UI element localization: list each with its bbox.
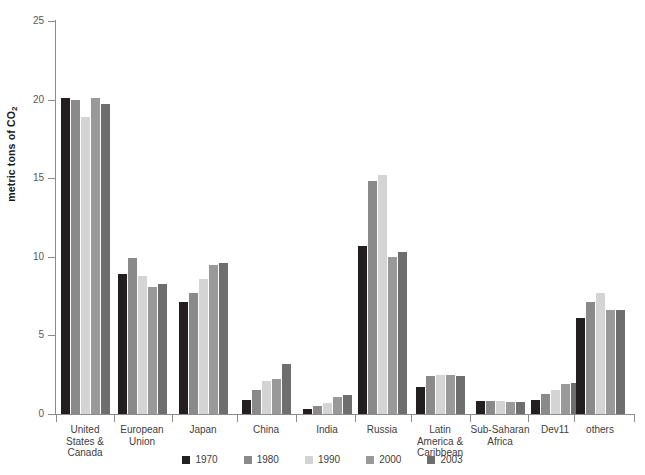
y-axis-tick: [48, 257, 55, 258]
bar[interactable]: [436, 375, 445, 414]
bar[interactable]: [118, 274, 127, 414]
x-axis-tick: [634, 415, 635, 422]
bar[interactable]: [81, 117, 90, 414]
legend-swatch-icon: [366, 456, 374, 464]
bar[interactable]: [426, 376, 435, 414]
legend-swatch-icon: [182, 456, 190, 464]
y-axis-tick: [48, 335, 55, 336]
bar[interactable]: [576, 318, 585, 414]
bar-group: [118, 21, 167, 414]
bar[interactable]: [541, 394, 550, 414]
bar[interactable]: [189, 293, 198, 414]
legend: 19701980199020002003: [0, 455, 645, 465]
y-axis-tick-label: 0: [10, 409, 44, 419]
legend-label: 2000: [379, 455, 401, 465]
bar[interactable]: [476, 401, 485, 414]
bar[interactable]: [506, 402, 515, 414]
bar[interactable]: [606, 310, 615, 414]
bar[interactable]: [91, 98, 100, 414]
bar[interactable]: [516, 402, 525, 414]
plot-area: [56, 21, 634, 414]
bar[interactable]: [219, 263, 228, 414]
x-axis-tick: [56, 415, 57, 422]
legend-item-1990[interactable]: 1990: [305, 455, 340, 465]
bar[interactable]: [209, 265, 218, 414]
bar[interactable]: [252, 390, 261, 414]
legend-item-1970[interactable]: 1970: [182, 455, 217, 465]
bar[interactable]: [446, 375, 455, 414]
bar[interactable]: [343, 395, 352, 414]
bar-group: [476, 21, 525, 414]
bar[interactable]: [272, 379, 281, 414]
bar[interactable]: [71, 100, 80, 414]
y-axis-title-text: metric tons of CO: [5, 111, 17, 202]
bar[interactable]: [101, 104, 110, 414]
bar[interactable]: [596, 293, 605, 414]
bar[interactable]: [398, 252, 407, 414]
legend-item-1980[interactable]: 1980: [244, 455, 279, 465]
y-axis-tick: [48, 100, 55, 101]
x-axis-line: [55, 414, 635, 415]
bar[interactable]: [128, 258, 137, 414]
bar-group: [303, 21, 352, 414]
bar-group: [242, 21, 291, 414]
bar[interactable]: [303, 409, 312, 415]
bar[interactable]: [242, 400, 251, 414]
bar[interactable]: [561, 384, 570, 414]
y-axis-tick: [48, 21, 55, 22]
bar[interactable]: [323, 403, 332, 414]
bar[interactable]: [138, 276, 147, 414]
legend-item-2003[interactable]: 2003: [427, 455, 462, 465]
legend-swatch-icon: [427, 456, 435, 464]
y-axis-title: metric tons of CO2: [2, 89, 20, 219]
bar[interactable]: [199, 279, 208, 414]
legend-item-2000[interactable]: 2000: [366, 455, 401, 465]
bar[interactable]: [388, 257, 397, 414]
legend-label: 1970: [195, 455, 217, 465]
x-axis-tick: [237, 415, 238, 422]
category-label-line: Africa: [462, 436, 538, 448]
x-axis-tick: [411, 415, 412, 422]
bar-group: [358, 21, 407, 414]
bar[interactable]: [368, 181, 377, 414]
bar[interactable]: [378, 175, 387, 414]
x-axis-tick: [114, 415, 115, 422]
bar[interactable]: [586, 302, 595, 414]
bar[interactable]: [531, 400, 540, 414]
y-axis-tick-label: 20: [10, 95, 44, 105]
bar[interactable]: [456, 376, 465, 415]
bar[interactable]: [358, 246, 367, 414]
category-label-line: others: [562, 424, 638, 436]
x-axis-tick: [355, 415, 356, 422]
bar[interactable]: [616, 310, 625, 414]
bar[interactable]: [282, 364, 291, 414]
x-axis-tick: [528, 415, 529, 422]
bar[interactable]: [179, 302, 188, 414]
bar[interactable]: [486, 401, 495, 414]
y-axis-tick-label: 5: [10, 330, 44, 340]
legend-label: 1980: [257, 455, 279, 465]
y-axis-tick: [48, 414, 55, 415]
x-axis-tick: [296, 415, 297, 422]
bar[interactable]: [416, 387, 425, 414]
bar-group: [576, 21, 625, 414]
bar[interactable]: [262, 381, 271, 414]
bar[interactable]: [551, 390, 560, 414]
category-label-line: Union: [104, 436, 180, 448]
bar[interactable]: [496, 401, 505, 414]
bar[interactable]: [148, 287, 157, 414]
legend-swatch-icon: [244, 456, 252, 464]
legend-swatch-icon: [305, 456, 313, 464]
bar[interactable]: [313, 406, 322, 414]
bar-group: [416, 21, 465, 414]
x-axis-category-label: others: [562, 424, 638, 436]
bar[interactable]: [333, 397, 342, 414]
x-axis-tick: [172, 415, 173, 422]
co2-emissions-bar-chart: metric tons of CO2 0510152025 UnitedStat…: [0, 0, 645, 475]
y-axis-tick-label: 25: [10, 16, 44, 26]
bar[interactable]: [158, 284, 167, 414]
bar-group: [61, 21, 110, 414]
y-axis-tick: [48, 178, 55, 179]
bar-group: [179, 21, 228, 414]
bar[interactable]: [61, 98, 70, 414]
